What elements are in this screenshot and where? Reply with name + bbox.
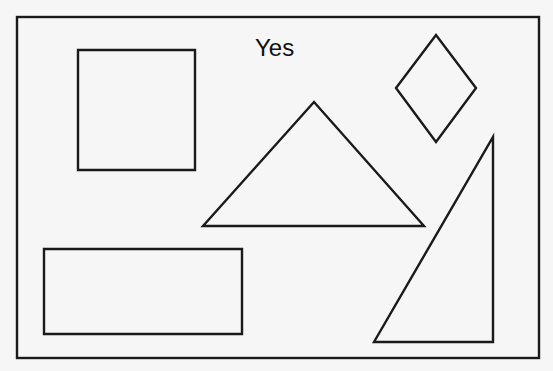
yes-label: Yes [255, 34, 294, 61]
shapes-diagram: Yes [0, 0, 553, 371]
right-triangle-shape [374, 137, 493, 342]
square-shape [78, 50, 195, 170]
triangle-shape [203, 102, 424, 226]
diamond-shape [396, 35, 476, 142]
rectangle-shape [44, 249, 242, 334]
